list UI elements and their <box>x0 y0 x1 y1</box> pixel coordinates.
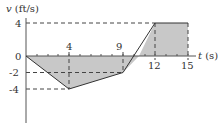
x-axis-label: t (s) <box>198 50 218 61</box>
ytick-neg4: -4 <box>9 84 19 95</box>
xtick-15: 15 <box>181 60 194 71</box>
xtick-9: 9 <box>116 41 122 52</box>
velocity-time-chart: v (ft/s) t (s) 4 0 -2 -4 4 9 12 15 <box>0 0 223 133</box>
xtick-12: 12 <box>148 60 161 71</box>
y-axis-label: v (ft/s) <box>6 3 39 14</box>
ytick-neg2: -2 <box>9 67 19 78</box>
ytick-4: 4 <box>15 18 21 29</box>
ytick-0: 0 <box>15 51 21 62</box>
xtick-4: 4 <box>66 41 72 52</box>
